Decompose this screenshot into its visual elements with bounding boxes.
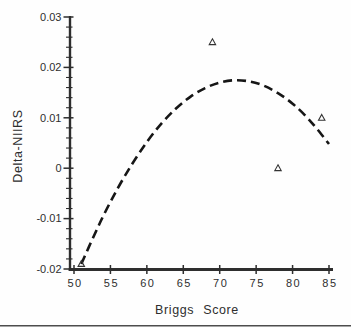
data-point-marker <box>209 39 215 45</box>
y-tick-label: 0.01 <box>40 112 61 124</box>
x-tick-label: 55 <box>104 277 119 289</box>
x-tick-label: 70 <box>213 277 228 289</box>
x-tick-label: 65 <box>177 277 192 289</box>
x-tick-label: 85 <box>322 277 337 289</box>
data-points <box>78 39 325 267</box>
y-tick-label: -0.02 <box>36 263 61 275</box>
x-tick-label: 60 <box>140 277 155 289</box>
y-major-ticks <box>64 17 74 269</box>
axes <box>69 16 333 271</box>
y-tick-label: -0.01 <box>36 212 61 224</box>
x-tick-labels: 5055606570758085 <box>67 277 337 289</box>
fit-curve-dashed <box>81 80 329 264</box>
y-tick-label: 0.02 <box>40 61 61 73</box>
y-tick-label: 0.03 <box>40 11 61 23</box>
x-tick-label: 50 <box>67 277 82 289</box>
y-axis-label: Delta-NIIRS <box>11 109 25 182</box>
chart-canvas: 0.030.020.010-0.01-0.02 5055606570758085… <box>0 0 351 328</box>
y-tick-label: 0 <box>55 162 61 174</box>
y-tick-labels: 0.030.020.010-0.01-0.02 <box>36 11 61 275</box>
x-tick-label: 80 <box>286 277 301 289</box>
x-tick-label: 75 <box>250 277 265 289</box>
scatter-plot-figure: 0.030.020.010-0.01-0.02 5055606570758085… <box>0 0 351 328</box>
data-point-marker <box>275 165 281 171</box>
x-axis-label: Briggs Score <box>155 303 239 317</box>
data-point-marker <box>319 114 325 120</box>
